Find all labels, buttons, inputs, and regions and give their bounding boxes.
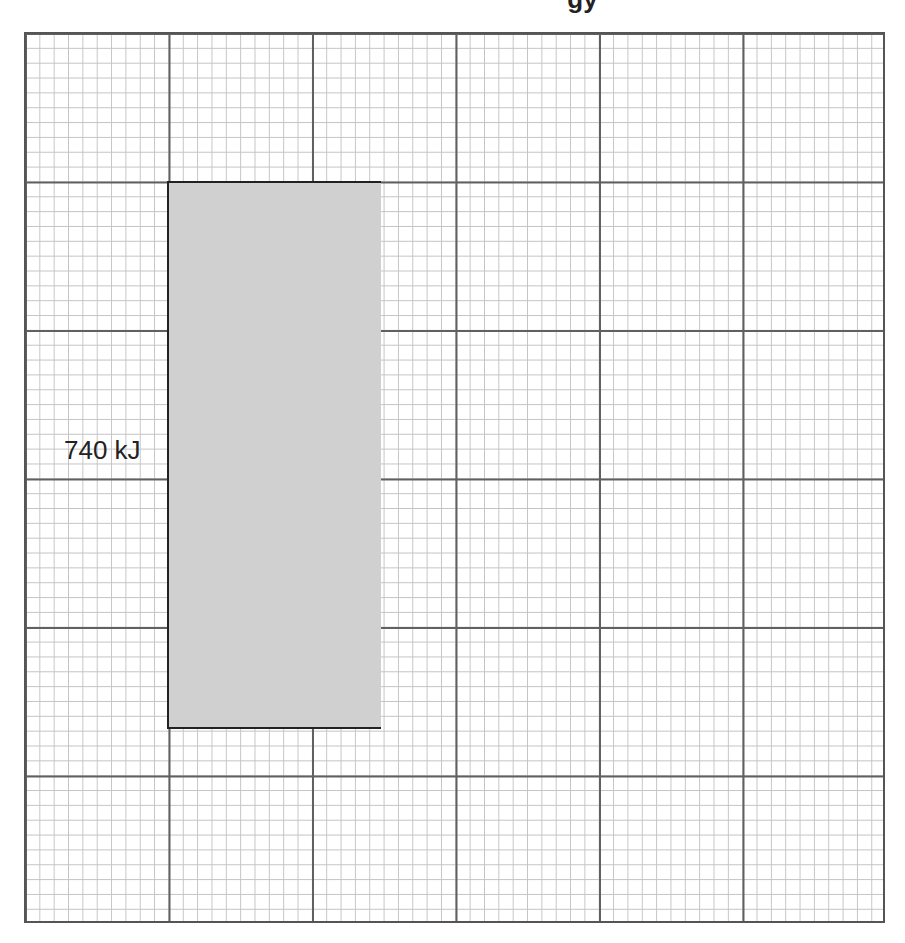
title-fragment: gy bbox=[0, 0, 905, 15]
title-text: gy bbox=[567, 0, 597, 14]
graph-paper-grid bbox=[24, 32, 885, 923]
energy-label: 740 kJ bbox=[64, 437, 141, 463]
energy-bar bbox=[167, 181, 381, 729]
